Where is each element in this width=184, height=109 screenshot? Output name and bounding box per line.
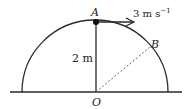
hemisphere-arc (22, 20, 168, 92)
radius-label: 2 m (72, 52, 93, 65)
radius-OB-dashed (96, 47, 150, 92)
velocity-label: 3 m s−1 (133, 7, 171, 19)
particle-dot (93, 19, 99, 25)
label-A: A (90, 6, 99, 19)
semicircle-diagram: A B O 2 m 3 m s−1 (0, 0, 184, 109)
label-O: O (92, 96, 101, 109)
label-B: B (150, 38, 159, 51)
